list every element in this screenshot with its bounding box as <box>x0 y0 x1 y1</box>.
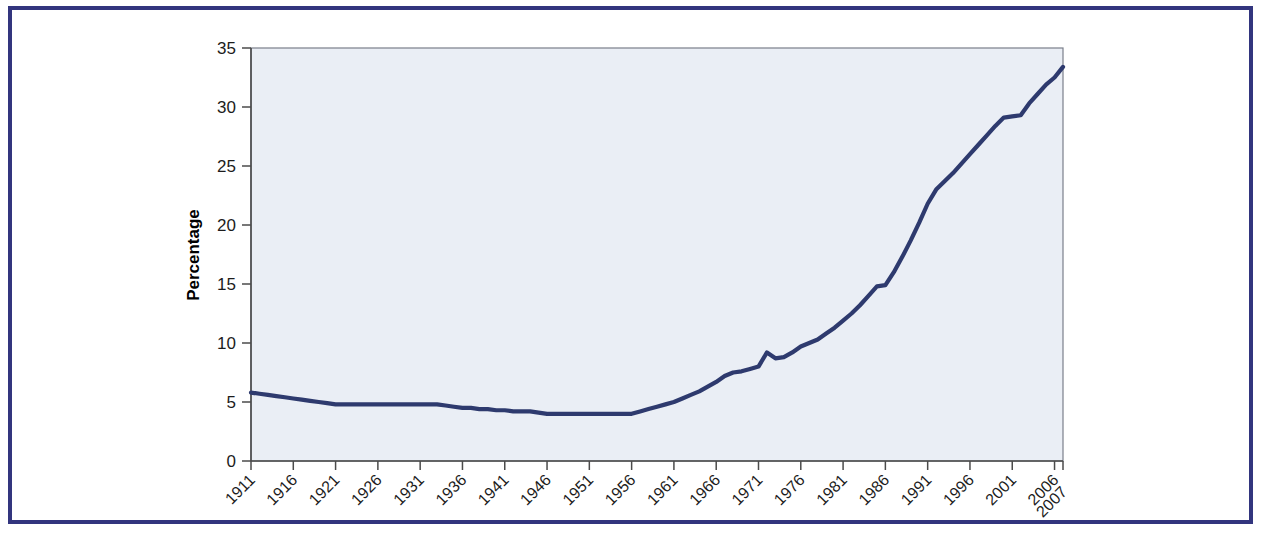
x-tick-label: 1946 <box>517 471 554 508</box>
plot-area-background <box>251 48 1063 461</box>
y-axis-title: Percentage <box>184 209 203 301</box>
x-tick-label: 1931 <box>390 471 427 508</box>
x-tick-label: 1971 <box>728 471 765 508</box>
x-tick-label: 1981 <box>813 471 850 508</box>
y-tick-label: 25 <box>217 157 236 176</box>
x-tick-label: 1956 <box>602 471 639 508</box>
figure-root: 05101520253035 1911191619211926193119361… <box>0 0 1270 542</box>
x-tick-label: 1966 <box>686 471 723 508</box>
x-tick-label: 1936 <box>432 471 469 508</box>
x-tick-label: 1921 <box>306 471 343 508</box>
line-chart: 05101520253035 1911191619211926193119361… <box>0 0 1270 542</box>
x-tick-label: 1911 <box>222 471 258 507</box>
y-tick-label: 5 <box>227 393 236 412</box>
y-axis-tick-marks <box>242 48 251 461</box>
x-tick-label: 1926 <box>348 471 385 508</box>
x-tick-label: 1996 <box>940 471 977 508</box>
x-tick-label: 1941 <box>475 471 512 508</box>
y-axis-tick-labels: 05101520253035 <box>217 39 236 471</box>
y-tick-label: 15 <box>217 275 236 294</box>
x-tick-label: 1916 <box>263 471 300 508</box>
y-tick-label: 0 <box>227 452 236 471</box>
y-tick-label: 10 <box>217 334 236 353</box>
x-tick-label: 1991 <box>898 471 935 508</box>
x-axis-tick-labels: 1911191619211926193119361941194619511956… <box>222 471 1070 520</box>
y-tick-label: 30 <box>217 98 236 117</box>
chart-canvas: 05101520253035 1911191619211926193119361… <box>0 0 1270 542</box>
y-tick-label: 35 <box>217 39 236 58</box>
x-tick-label: 1961 <box>644 471 681 508</box>
x-axis-tick-marks <box>251 461 1063 470</box>
x-tick-label: 2001 <box>982 471 1019 508</box>
y-tick-label: 20 <box>217 216 236 235</box>
x-tick-label: 1986 <box>855 471 892 508</box>
x-tick-label: 1976 <box>771 471 808 508</box>
x-tick-label: 1951 <box>559 471 596 508</box>
